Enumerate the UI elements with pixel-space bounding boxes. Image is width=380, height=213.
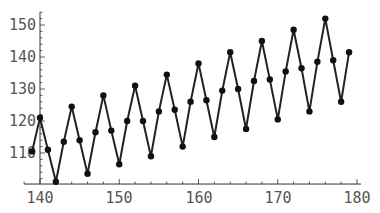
y-tick-label-120: 120: [9, 112, 36, 130]
data-point-marker: [235, 86, 241, 92]
y-tick-label-140: 140: [9, 48, 36, 66]
line-chart: 140 150 160 170 180 110 120 130 140 150: [0, 0, 380, 213]
data-point-marker: [259, 38, 265, 44]
data-point-marker: [37, 115, 43, 121]
data-point-marker: [148, 153, 154, 159]
data-point-marker: [53, 179, 59, 185]
data-point-marker: [227, 49, 233, 55]
x-tick-label-150: 150: [105, 189, 132, 207]
data-point-marker: [69, 103, 75, 109]
data-point-marker: [156, 108, 162, 114]
x-tick-label-180: 180: [343, 189, 370, 207]
data-point-marker: [275, 116, 281, 122]
data-point-marker: [132, 83, 138, 89]
data-point-marker: [195, 60, 201, 66]
data-point-marker: [251, 78, 257, 84]
data-point-marker: [84, 171, 90, 177]
data-point-marker: [140, 118, 146, 124]
data-point-marker: [116, 161, 122, 167]
data-point-marker: [100, 92, 106, 98]
data-point-marker: [29, 148, 35, 154]
data-series: [29, 15, 352, 185]
data-point-marker: [267, 76, 273, 82]
x-tick-label-170: 170: [264, 189, 291, 207]
data-point-marker: [338, 99, 344, 105]
data-point-marker: [187, 99, 193, 105]
data-point-marker: [45, 147, 51, 153]
x-tick-label-140: 140: [26, 189, 53, 207]
data-point-marker: [211, 134, 217, 140]
data-point-marker: [322, 15, 328, 21]
data-point-marker: [282, 68, 288, 74]
y-tick-label-150: 150: [9, 16, 36, 34]
x-tick-label-160: 160: [185, 189, 212, 207]
data-point-marker: [330, 57, 336, 63]
data-point-marker: [306, 108, 312, 114]
data-point-marker: [172, 107, 178, 113]
data-point-marker: [298, 65, 304, 71]
data-point-marker: [108, 127, 114, 133]
data-point-marker: [290, 27, 296, 33]
data-point-marker: [203, 97, 209, 103]
y-tick-label-130: 130: [9, 80, 36, 98]
data-point-marker: [314, 59, 320, 65]
data-point-marker: [164, 71, 170, 77]
data-point-marker: [92, 129, 98, 135]
data-point-marker: [243, 126, 249, 132]
data-point-marker: [124, 118, 130, 124]
data-point-marker: [219, 87, 225, 93]
data-point-marker: [76, 137, 82, 143]
axes: [24, 12, 361, 184]
data-point-marker: [346, 49, 352, 55]
data-point-marker: [61, 139, 67, 145]
data-point-marker: [179, 143, 185, 149]
